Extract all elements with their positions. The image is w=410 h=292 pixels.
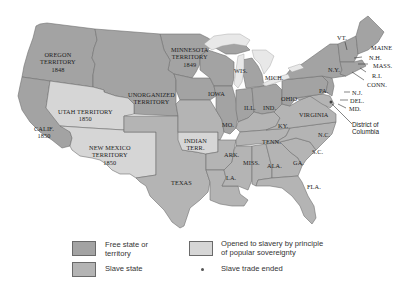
label-pa: PA. xyxy=(319,87,328,94)
legend-dot-slave-trade xyxy=(201,268,204,271)
pointer-conn xyxy=(352,72,364,80)
label-nj: N.J. xyxy=(352,89,363,96)
region-mass-conn-ri xyxy=(340,60,366,76)
label-md: MD. xyxy=(349,105,361,112)
pointer-ri xyxy=(360,68,366,72)
label-ga: GA. xyxy=(293,159,304,166)
label-sc: S.C. xyxy=(312,148,323,155)
label-nh: N.H. xyxy=(369,54,382,61)
label-ala: ALA. xyxy=(267,162,282,169)
label-ind: IND. xyxy=(263,104,276,111)
label-del: DEL. xyxy=(350,97,364,104)
label-maine: MAINE xyxy=(371,44,392,51)
label-ny: N.Y. xyxy=(328,66,340,73)
label-dc: District of Columbia xyxy=(352,121,379,136)
label-virginia: VIRGINIA xyxy=(299,111,328,118)
label-miss: MISS. xyxy=(243,159,260,166)
legend-label-free: Free state or territory xyxy=(105,241,148,258)
region-ny xyxy=(282,44,346,80)
legend-label-slave: Slave state xyxy=(105,265,143,274)
label-tenn: TENN. xyxy=(262,138,281,145)
label-mich: MICH. xyxy=(265,74,284,81)
legend-swatch-popular xyxy=(189,241,213,256)
label-nc: N.C. xyxy=(318,131,330,138)
legend-swatch-free xyxy=(72,241,96,256)
label-ohio: OHIO xyxy=(281,95,297,102)
label-vt: VT. xyxy=(337,34,347,41)
label-minnesota: MINNESOTA TERRITORY 1849 xyxy=(171,46,208,68)
label-unorganized: UNORGANIZED TERRITORY xyxy=(128,91,175,106)
label-fla: FLA. xyxy=(307,183,321,190)
label-ark: ARK. xyxy=(224,151,239,158)
label-wis: WIS. xyxy=(234,67,248,74)
label-calif: CALIF. 1850 xyxy=(34,125,54,140)
label-oregon: OREGON TERRITORY 1848 xyxy=(40,51,76,73)
label-mass: MASS. xyxy=(373,62,392,69)
label-iowa: IOWA xyxy=(208,90,225,97)
legend-label-popular: Opened to slavery by principle of popula… xyxy=(221,240,323,257)
label-ky: KY. xyxy=(278,122,288,129)
label-ill: ILL. xyxy=(244,104,256,111)
label-mo: MO. xyxy=(222,121,234,128)
label-indian: INDIAN TERR. xyxy=(184,137,207,152)
label-la: LA. xyxy=(226,174,236,181)
legend-swatch-slave xyxy=(72,262,96,277)
label-conn: CONN. xyxy=(367,81,387,88)
dc-dot xyxy=(330,101,333,104)
pointer-md xyxy=(338,104,346,108)
legend-label-trade: Slave trade ended xyxy=(221,265,283,274)
label-utah: UTAH TERRITORY 1850 xyxy=(58,108,113,123)
label-texas: TEXAS xyxy=(171,179,192,186)
label-new-mexico: NEW MEXICO TERRITORY 1850 xyxy=(89,144,131,166)
label-ri: R.I. xyxy=(372,72,382,79)
